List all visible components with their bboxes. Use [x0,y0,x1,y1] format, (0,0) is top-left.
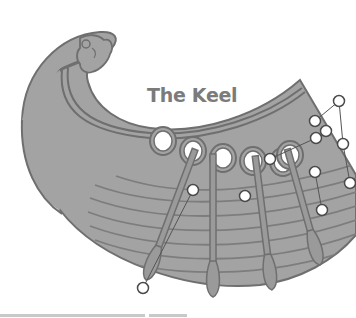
leader-line [339,101,343,144]
callout-marker-c9[interactable] [321,126,332,137]
viking-ship-illustration [0,0,356,318]
diagram-title: The Keel [147,84,237,106]
callout-marker-c2[interactable] [188,185,199,196]
callout-marker-c1[interactable] [138,283,149,294]
callout-marker-c3[interactable] [240,191,251,202]
callout-marker-c4[interactable] [265,154,276,165]
callout-marker-c12[interactable] [345,178,356,189]
footer-bar [149,314,187,317]
footer-bar [0,314,145,317]
callout-marker-c8[interactable] [310,116,321,127]
keel-diagram: The Keel [0,0,356,318]
figurehead [77,35,112,72]
callout-marker-c5[interactable] [310,167,321,178]
callout-marker-c7[interactable] [334,96,345,107]
callout-marker-c10[interactable] [311,133,322,144]
oar-port-hole [154,131,172,151]
callout-marker-c6[interactable] [317,205,328,216]
callout-marker-c11[interactable] [338,139,349,150]
